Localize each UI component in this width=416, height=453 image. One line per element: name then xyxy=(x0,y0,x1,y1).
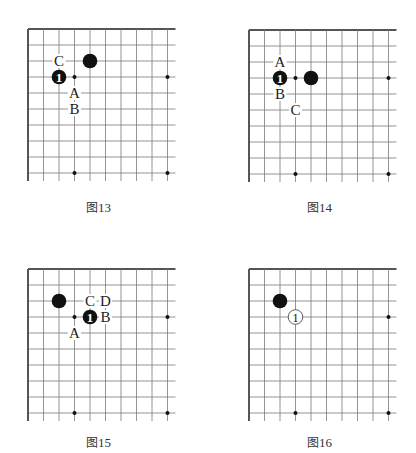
caption-number: 16 xyxy=(319,435,332,450)
white-stone-move-1: 1 xyxy=(288,310,303,325)
star-point-icon xyxy=(387,411,391,415)
figure-caption: 图16 xyxy=(307,433,332,451)
grid-lines xyxy=(249,269,397,421)
black-stone xyxy=(273,294,288,309)
star-point-icon xyxy=(387,315,391,319)
svg-text:1: 1 xyxy=(292,310,299,325)
star-point-icon xyxy=(294,411,298,415)
go-board-fig16: 1 xyxy=(0,0,416,453)
caption-prefix: 图 xyxy=(307,436,319,450)
